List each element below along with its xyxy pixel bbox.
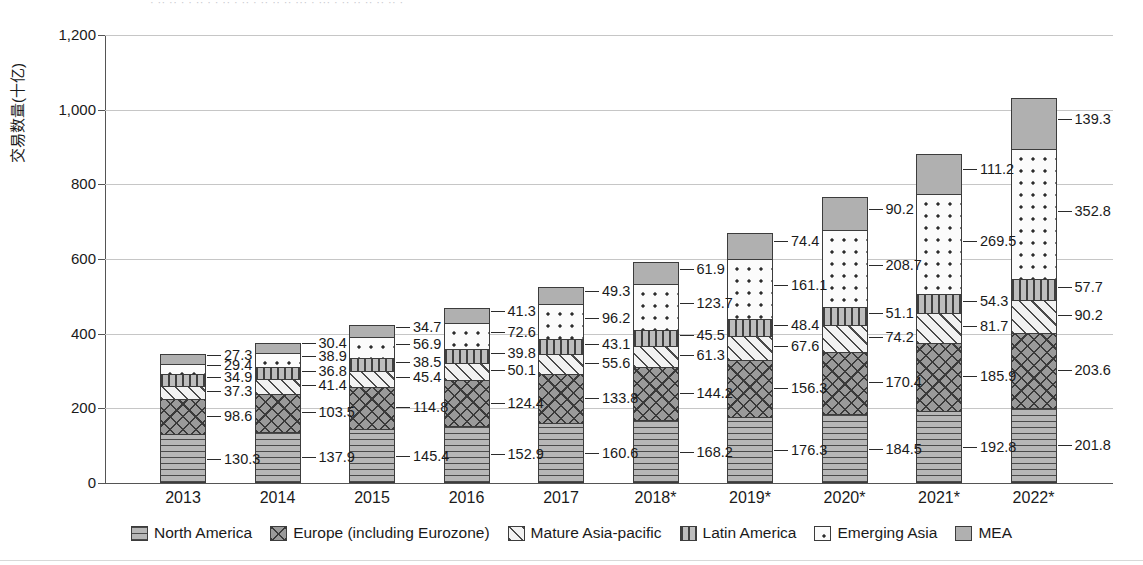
leader-line [207,355,221,356]
value-label: 111.2 [980,162,1014,177]
bar-segment[interactable] [1011,149,1057,281]
leader-line [963,301,977,302]
bar-segment[interactable] [538,304,584,340]
bar-segment[interactable] [255,353,301,368]
gridline [105,35,1113,36]
bar-segment[interactable] [1011,333,1057,409]
legend-label: Europe (including Eurozone) [293,524,489,542]
bar-segment[interactable] [160,386,206,400]
bar-segment[interactable] [538,354,584,375]
legend-item-emerging-asia[interactable]: Emerging Asia [814,524,937,542]
bar-segment[interactable] [255,432,301,483]
bar-segment[interactable] [633,420,679,483]
bar-segment[interactable] [349,429,395,483]
bar-segment[interactable] [727,417,773,483]
bar-2018[interactable] [633,263,679,483]
bar-2014[interactable] [255,344,301,483]
bar-segment[interactable] [633,262,679,285]
y-tick-label: 800 [30,175,96,192]
bar-segment[interactable] [916,154,962,196]
bar-2022[interactable] [1011,99,1057,483]
value-label: 124.4 [508,396,544,411]
bar-segment[interactable] [160,434,206,483]
bar-segment[interactable] [727,360,773,418]
bar-segment[interactable] [349,337,395,358]
bar-segment[interactable] [444,363,490,382]
bar-segment[interactable] [822,230,868,308]
bar-segment[interactable] [1011,300,1057,334]
leader-line [1058,119,1072,120]
bar-segment[interactable] [255,379,301,394]
bar-segment[interactable] [349,387,395,430]
bar-segment[interactable] [349,371,395,388]
bar-2021[interactable] [916,155,962,483]
bar-segment[interactable] [916,194,962,295]
x-tick-label: 2019* [705,489,795,507]
bar-segment[interactable] [727,336,773,361]
bar-2013[interactable] [160,355,206,483]
bar-segment[interactable] [538,339,584,355]
bar-segment[interactable] [1011,279,1057,301]
leader-line [302,412,316,413]
bar-segment[interactable] [633,367,679,421]
leader-line [1058,315,1072,316]
bar-segment[interactable] [349,358,395,372]
leader-line [774,388,788,389]
bar-segment[interactable] [633,330,679,347]
clipped-header-text: · ·· ·· · · ·· · · ·· · ·· · ·· ·· ·· ··… [150,0,850,8]
bar-segment[interactable] [444,323,490,350]
leader-line [207,459,221,460]
legend-item-europe-including-eurozone[interactable]: Europe (including Eurozone) [270,524,489,542]
bar-2016[interactable] [444,309,490,483]
bar-segment[interactable] [444,426,490,483]
bar-segment[interactable] [822,197,868,231]
value-label: 201.8 [1075,438,1111,453]
bar-segment[interactable] [822,307,868,326]
bar-segment[interactable] [444,380,490,426]
value-label: 49.3 [602,284,630,299]
bar-2015[interactable] [349,326,395,483]
value-label: 130.3 [224,452,260,467]
bar-2020[interactable] [822,198,868,483]
leader-line [585,453,599,454]
bar-segment[interactable] [727,233,773,261]
leader-line [869,337,883,338]
bar-segment[interactable] [727,259,773,319]
bar-segment[interactable] [916,343,962,412]
bar-segment[interactable] [255,394,301,433]
leader-line [302,385,316,386]
leader-line [774,241,788,242]
bar-2017[interactable] [538,288,584,483]
bar-segment[interactable] [633,346,679,369]
bar-segment[interactable] [916,313,962,344]
bar-segment[interactable] [822,325,868,353]
bar-segment[interactable] [822,352,868,416]
bar-2019[interactable] [727,234,773,483]
leader-line [396,344,410,345]
legend-item-mature-asia-pacific[interactable]: Mature Asia-pacific [508,524,662,542]
bar-segment[interactable] [1011,408,1057,483]
bar-segment[interactable] [1011,98,1057,150]
bar-segment[interactable] [916,411,962,483]
bar-segment[interactable] [444,349,490,364]
legend-label: North America [154,524,252,542]
x-tick-label: 2013 [138,489,228,507]
bar-segment[interactable] [160,399,206,436]
bar-segment[interactable] [538,287,584,305]
legend-item-north-america[interactable]: North America [131,524,252,542]
value-label: 45.4 [413,370,441,385]
legend-item-latin-america[interactable]: Latin America [680,524,797,542]
legend-item-mea[interactable]: MEA [955,524,1012,542]
bar-segment[interactable] [538,423,584,483]
bar-segment[interactable] [633,284,679,330]
value-label: 57.7 [1075,280,1103,295]
bar-segment[interactable] [255,367,301,381]
bar-segment[interactable] [444,308,490,323]
bar-segment[interactable] [822,414,868,483]
bar-segment[interactable] [538,374,584,424]
value-label: 152.9 [508,447,544,462]
leader-line [774,285,788,286]
y-tick-label: 200 [30,399,96,416]
bar-segment[interactable] [727,319,773,337]
bar-segment[interactable] [916,294,962,314]
